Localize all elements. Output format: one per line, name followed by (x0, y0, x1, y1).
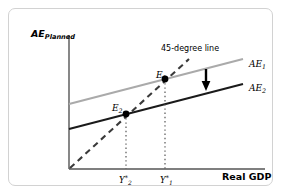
y2-tick-sub: 2 (128, 179, 132, 186)
y-axis-label-main: AE (31, 28, 45, 39)
ae1-label-main: AE (249, 59, 262, 69)
ae2-label-main: AE (249, 83, 262, 93)
e2-point-dot (123, 111, 130, 118)
y1-tick-sub: 1 (169, 179, 173, 186)
ae1-label-sub: 1 (262, 63, 266, 70)
shift-down-arrow (202, 69, 211, 91)
y1-tick-main: Y (160, 175, 166, 185)
forty-five-degree-line-label: 45-degree line (161, 45, 219, 53)
e2-point-label: E2 (112, 104, 123, 113)
x-tick-label-y1: Y*1 (160, 176, 173, 185)
y2-tick-main: Y (119, 175, 125, 185)
y-axis-label-sub: Planned (45, 33, 75, 41)
e2-label-main: E (112, 103, 119, 113)
ae2-curve-label: AE2 (249, 84, 266, 93)
y-axis-label: AEPlanned (31, 29, 75, 39)
ae1-curve-label: AE1 (249, 60, 266, 69)
ae2-label-sub: 2 (262, 87, 266, 94)
ae1-curve (69, 59, 243, 104)
e1-label-sub: 1 (163, 74, 167, 81)
x-axis-label: Real GDP (222, 172, 271, 182)
ae2-curve (69, 84, 243, 129)
x-tick-label-y2: Y*2 (119, 176, 132, 185)
e1-point-label: E1 (156, 71, 167, 80)
figure-panel: AEPlanned Real GDP 45-degree line AE1 AE… (8, 8, 273, 186)
e1-label-main: E (156, 70, 163, 80)
e2-label-sub: 2 (119, 107, 123, 114)
